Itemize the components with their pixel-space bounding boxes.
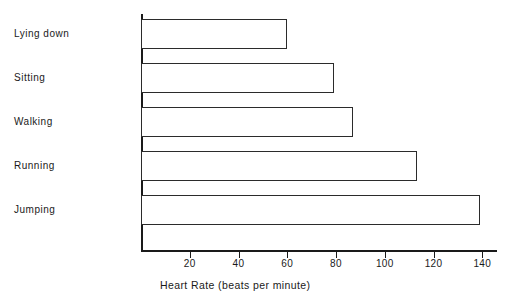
x-tick-label-80: 80 — [316, 258, 356, 269]
x-tick-label-120: 120 — [414, 258, 454, 269]
bar-walking — [141, 107, 353, 137]
x-axis-title: Heart Rate (beats per minute) — [160, 279, 311, 291]
bar-jumping — [141, 195, 480, 225]
x-tick-label-40: 40 — [219, 258, 259, 269]
plot-area: Lying downSittingWalkingRunningJumping 2… — [0, 0, 520, 301]
bar-sitting — [141, 63, 334, 93]
category-label-running: Running — [14, 160, 55, 171]
bar-running — [141, 151, 417, 181]
category-label-lying-down: Lying down — [14, 28, 69, 39]
category-label-jumping: Jumping — [14, 204, 55, 215]
category-label-sitting: Sitting — [14, 72, 45, 83]
x-tick-label-60: 60 — [267, 258, 307, 269]
bar-chart: Lying downSittingWalkingRunningJumping 2… — [0, 0, 520, 301]
x-tick-label-20: 20 — [170, 258, 210, 269]
x-tick-label-140: 140 — [462, 258, 502, 269]
category-label-walking: Walking — [14, 116, 53, 127]
x-tick-label-100: 100 — [365, 258, 405, 269]
bar-lying-down — [141, 19, 287, 49]
x-axis-line — [141, 250, 497, 252]
